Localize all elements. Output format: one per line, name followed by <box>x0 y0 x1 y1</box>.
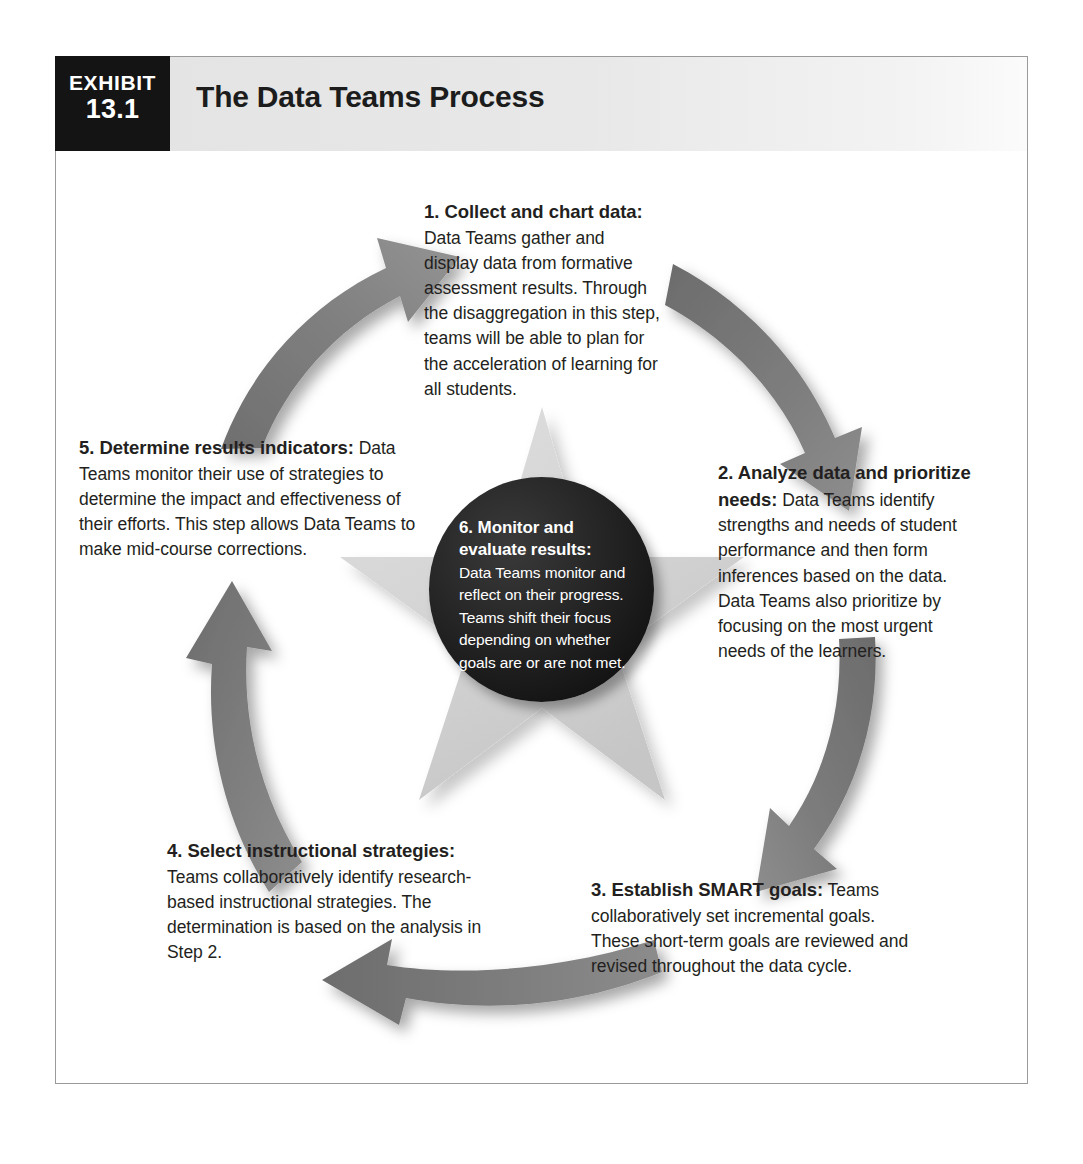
step-2-text: 2. Analyze data and prioritize needs: Da… <box>718 460 976 664</box>
step-5-text: 5. Determine results indicators: Data Te… <box>79 435 419 562</box>
exhibit-badge-number: 13.1 <box>55 94 170 125</box>
arrow-step2-to-step3 <box>756 637 876 892</box>
data-teams-process-diagram: 6. Monitor and evaluate results: Data Te… <box>56 152 1027 1083</box>
step-3-heading: 3. Establish SMART goals: <box>591 879 823 900</box>
step-6-heading: 6. Monitor and evaluate results: <box>459 518 591 559</box>
center-circle: 6. Monitor and evaluate results: Data Te… <box>429 477 654 702</box>
exhibit-badge-word: EXHIBIT <box>55 72 170 94</box>
step-1-text: 1. Collect and chart data: Data Teams ga… <box>424 199 660 402</box>
step-3-text: 3. Establish SMART goals: Teams collabor… <box>591 877 921 979</box>
step-5-heading: 5. Determine results indicators: <box>79 437 354 458</box>
step-2-body: Data Teams identify strengths and needs … <box>718 490 957 662</box>
step-4-body: Teams collaboratively identify research-… <box>167 867 481 963</box>
exhibit-badge: EXHIBIT 13.1 <box>55 56 170 151</box>
page-title: The Data Teams Process <box>196 80 545 114</box>
step-6-text: 6. Monitor and evaluate results: Data Te… <box>459 517 627 674</box>
step-4-text: 4. Select instructional strategies: Team… <box>167 838 487 965</box>
step-4-heading: 4. Select instructional strategies: <box>167 840 455 861</box>
step-6-body: Data Teams monitor and reflect on their … <box>459 564 625 671</box>
step-1-heading: 1. Collect and chart data: <box>424 201 643 222</box>
step-1-body: Data Teams gather and display data from … <box>424 228 660 399</box>
